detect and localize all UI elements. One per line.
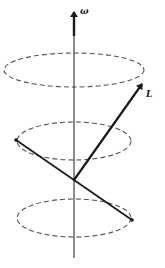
rod-end-mass-right: [130, 218, 134, 222]
rotating-rod-diagram: ω L: [0, 0, 165, 268]
angular-velocity-label: ω: [80, 6, 89, 16]
angular-momentum-arrow: [74, 84, 142, 180]
angular-momentum-label: L: [145, 89, 152, 99]
pivot-point: [73, 179, 75, 181]
rod-end-mass-left: [14, 138, 18, 142]
